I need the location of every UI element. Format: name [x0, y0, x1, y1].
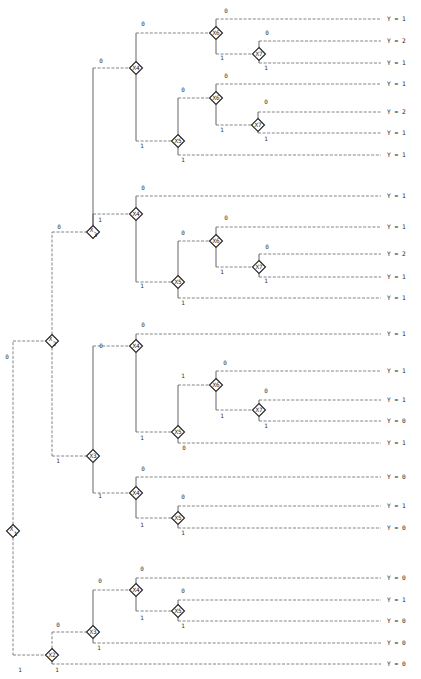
- node-subscript: 3: [94, 231, 98, 238]
- decision-node-n1: X1: [7, 525, 20, 538]
- branch-label: 1: [264, 135, 268, 142]
- node-label: X3: [89, 628, 97, 635]
- tree-edge: 0: [52, 223, 87, 335]
- decision-node-n5a: X5: [172, 135, 185, 148]
- decision-node-n7d: X7: [253, 404, 266, 417]
- leaf-value-label: Y = 1: [387, 59, 406, 66]
- decision-node-n7b: X7: [252, 119, 265, 132]
- leaf-outcome: 1Y = 1: [178, 289, 406, 307]
- tree-edge: 1: [216, 105, 252, 134]
- leaf-value-label: Y = 1: [387, 129, 406, 136]
- tree-edge: 1: [93, 463, 130, 500]
- branch-label: 1: [98, 492, 102, 499]
- branch-label: 0: [99, 342, 103, 349]
- leaf-value-label: Y = 1: [387, 80, 406, 87]
- leaf-value-label: Y = 1: [387, 396, 406, 403]
- branch-label: 0: [98, 577, 102, 584]
- branch-label: 0: [99, 57, 103, 64]
- leaf-outcome: 1Y = 0: [178, 617, 406, 629]
- branch-label: 0: [224, 214, 228, 221]
- leaf-value-label: Y = 0: [387, 473, 406, 480]
- branch-label: 1: [264, 64, 268, 71]
- leaf-outcome: 0Y = 1: [136, 184, 406, 208]
- branch-label: 0: [141, 20, 145, 27]
- branch-label: 1: [181, 299, 185, 306]
- branch-label: 1: [181, 372, 185, 379]
- node-label: X4: [132, 342, 140, 349]
- tree-edge: 0: [178, 86, 210, 135]
- tree-edge: 1: [13, 538, 46, 674]
- node-label: X4: [132, 489, 140, 496]
- decision-tree-diagram: 01010010101011110011111 0Y = 10Y = 21Y =…: [0, 0, 421, 679]
- tree-edge: 1: [52, 348, 87, 465]
- leaf-outcome: 0Y = 1: [216, 359, 406, 379]
- branch-label: 0: [57, 223, 61, 230]
- branch-label: 0: [141, 465, 145, 472]
- node-label: X7: [255, 406, 263, 413]
- branch-label: 0: [56, 621, 60, 628]
- leaf-value-label: Y = 2: [387, 37, 406, 44]
- node-label: X4: [132, 64, 140, 71]
- node-label: X6: [212, 29, 220, 36]
- decision-node-n5b: X5: [172, 276, 185, 289]
- decision-node-n2a: X2: [46, 335, 59, 348]
- node-label: X6: [212, 381, 220, 388]
- branch-label: 1: [220, 126, 224, 133]
- node-label: X2: [48, 651, 56, 658]
- tree-edge: 1: [136, 353, 172, 442]
- node-label: X6: [212, 237, 220, 244]
- branch-label: 0: [265, 243, 269, 250]
- branch-label: 1: [56, 457, 60, 464]
- leaf-outcome: 1Y = 0: [259, 417, 406, 430]
- leaf-value-label: Y = 0: [387, 574, 406, 581]
- leaf-outcome: 1Y = 0: [93, 639, 406, 652]
- leaf-outcome: 0Y = 1: [178, 439, 406, 452]
- leaf-outcome: 0Y = 2: [259, 29, 406, 48]
- node-label: X7: [255, 263, 263, 270]
- leaf-value-label: Y = 1: [387, 151, 406, 158]
- node-label: X4: [132, 210, 140, 217]
- decision-node-n4c: X4: [130, 340, 143, 353]
- decision-node-n7a: X7: [253, 48, 266, 61]
- leaf-outcome: 1Y = 0: [52, 660, 406, 673]
- leaf-outcome: 1Y = 1: [259, 59, 406, 71]
- leaf-value-label: Y = 0: [387, 617, 406, 624]
- branch-label: 1: [220, 268, 224, 275]
- leaf-outcome: 0Y = 2: [258, 98, 406, 119]
- leaf-value-label: Y = 1: [387, 273, 406, 280]
- leaf-outcome: 0Y = 0: [136, 465, 406, 487]
- branch-label: 0: [264, 387, 268, 394]
- branch-label: 0: [224, 7, 228, 14]
- tree-edge: 1: [93, 214, 130, 239]
- decision-node-n7c: X7: [253, 261, 266, 274]
- branch-label: 1: [97, 644, 101, 651]
- leaf-outcome: 1Y = 0: [178, 524, 406, 536]
- branch-label: 0: [265, 29, 269, 36]
- branch-label: 0: [181, 493, 185, 500]
- tree-edge: 1: [136, 500, 172, 529]
- leaf-value-label: Y = 0: [387, 639, 406, 646]
- branch-label: 1: [140, 434, 144, 441]
- decision-node-n4a: X4: [130, 62, 143, 75]
- branch-label: 0: [5, 353, 9, 360]
- branch-label: 0: [181, 229, 185, 236]
- tree-edge: 0: [93, 342, 130, 450]
- branch-label: 0: [224, 72, 228, 79]
- node-label: X5: [174, 514, 182, 521]
- branch-label: 1: [140, 142, 144, 149]
- leaf-outcome: 0Y = 1: [259, 387, 406, 404]
- decision-node-n4e: X4: [130, 584, 143, 597]
- leaf-value-label: Y = 1: [387, 192, 406, 199]
- leaf-outcome: 1Y = 1: [178, 148, 406, 164]
- branch-label: 0: [141, 184, 145, 191]
- leaf-outcome: 0Y = 0: [136, 565, 406, 584]
- branch-label: 1: [264, 277, 268, 284]
- leaf-outcome: 0Y = 1: [216, 72, 406, 92]
- branch-label: 1: [220, 54, 224, 61]
- tree-edge: 1: [216, 392, 253, 420]
- leaf-value-label: Y = 1: [387, 223, 406, 230]
- branch-label: 0: [140, 565, 144, 572]
- leaf-outcome: 1Y = 1: [258, 129, 406, 142]
- tree-edge: 1: [136, 221, 172, 290]
- branch-label: 1: [140, 521, 144, 528]
